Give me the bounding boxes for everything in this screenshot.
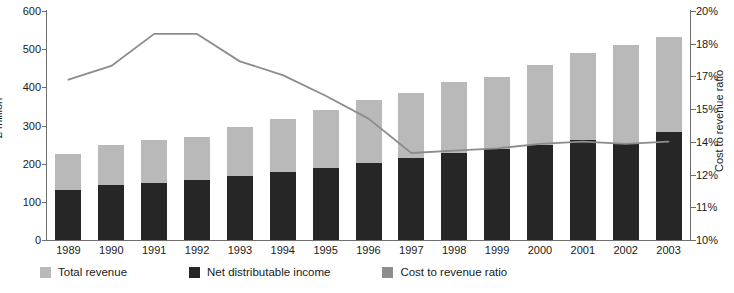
y-axis-right-tick-label: 20%	[696, 6, 718, 17]
bar-group	[656, 11, 682, 240]
x-axis-tick-label: 1992	[176, 244, 219, 256]
y-axis-left-tick-label: 300	[23, 121, 41, 132]
bar-group	[613, 11, 639, 240]
y-axis-right-tick-mark	[691, 240, 696, 241]
bar-group	[227, 11, 253, 240]
bar-segment-net-distributable-income	[313, 168, 339, 240]
bar-segment-net-distributable-income	[484, 149, 510, 240]
bar-group	[398, 11, 424, 240]
bar-group	[313, 11, 339, 240]
y-axis-left-tick-label: 0	[35, 235, 41, 246]
bar-group	[356, 11, 382, 240]
y-axis-left-tick-mark	[42, 126, 47, 127]
bar-segment-net-distributable-income	[441, 153, 467, 240]
legend-label: Net distributable income	[207, 266, 330, 278]
bar-segment-net-distributable-income	[55, 190, 81, 240]
x-axis-tick-label: 2001	[561, 244, 604, 256]
legend-item: Net distributable income	[189, 266, 330, 278]
bar-group	[441, 11, 467, 240]
x-axis-tick-label: 1990	[90, 244, 133, 256]
y-axis-left-tick-mark	[42, 240, 47, 241]
y-axis-right-tick-mark	[691, 11, 696, 12]
x-axis-tick-label: 1995	[304, 244, 347, 256]
y-axis-left-tick-label: 600	[23, 6, 41, 17]
bar-segment-net-distributable-income	[398, 158, 424, 240]
y-axis-left-tick-mark	[42, 11, 47, 12]
y-axis-right-tick-label: 10%	[696, 235, 718, 246]
legend-swatch-icon	[189, 267, 200, 278]
bar-segment-net-distributable-income	[141, 183, 167, 240]
bar-segment-net-distributable-income	[613, 143, 639, 240]
bar-group	[141, 11, 167, 240]
y-axis-left-tick-label: 100	[23, 197, 41, 208]
bar-group	[55, 11, 81, 240]
bar-segment-net-distributable-income	[270, 172, 296, 240]
x-axis-tick-label: 1996	[347, 244, 390, 256]
bar-segment-net-distributable-income	[656, 132, 682, 240]
x-axis-line	[46, 240, 691, 241]
y-axis-right-tick-mark	[691, 175, 696, 176]
plot-area	[47, 11, 690, 240]
x-axis-tick-label: 2002	[604, 244, 647, 256]
legend-label: Total revenue	[58, 266, 127, 278]
bar-group	[570, 11, 596, 240]
bar-segment-net-distributable-income	[570, 140, 596, 240]
y-axis-right-tick-mark	[691, 109, 696, 110]
x-axis-tick-label: 1993	[218, 244, 261, 256]
legend-swatch-icon	[40, 267, 51, 278]
y-axis-right-tick-mark	[691, 44, 696, 45]
legend-swatch-icon	[382, 267, 393, 278]
bar-group	[98, 11, 124, 240]
x-axis-tick-label: 1998	[433, 244, 476, 256]
y-axis-right-ticks: 10%11%12%14%15%17%18%20%	[696, 0, 734, 293]
y-axis-right-tick-label: 18%	[696, 39, 718, 50]
x-axis-tick-label: 2003	[647, 244, 690, 256]
y-axis-left-tick-mark	[42, 87, 47, 88]
bar-group	[484, 11, 510, 240]
y-axis-right-tick-label: 17%	[696, 71, 718, 82]
y-axis-right-tick-mark	[691, 207, 696, 208]
x-axis-tick-label: 1997	[390, 244, 433, 256]
y-axis-left-tick-label: 200	[23, 159, 41, 170]
y-axis-right-tick-label: 15%	[696, 104, 718, 115]
y-axis-left-tick-mark	[42, 164, 47, 165]
legend-item: Total revenue	[40, 266, 127, 278]
y-axis-right-tick-mark	[691, 76, 696, 77]
y-axis-right-tick-mark	[691, 142, 696, 143]
x-axis-tick-label: 1994	[261, 244, 304, 256]
y-axis-right-tick-label: 11%	[696, 202, 717, 213]
bar-segment-net-distributable-income	[527, 145, 553, 240]
y-axis-left-tick-mark	[42, 202, 47, 203]
legend-item: Cost to revenue ratio	[382, 266, 507, 278]
chart-legend: Total revenueNet distributable incomeCos…	[40, 266, 507, 278]
y-axis-right-tick-label: 14%	[696, 137, 718, 148]
bar-group	[527, 11, 553, 240]
x-axis-tick-label: 1989	[47, 244, 90, 256]
bar-segment-net-distributable-income	[98, 185, 124, 240]
bar-segment-net-distributable-income	[356, 163, 382, 240]
bar-group	[184, 11, 210, 240]
y-axis-left-tick-label: 500	[23, 44, 41, 55]
x-axis-tick-label: 1991	[133, 244, 176, 256]
y-axis-left-tick-mark	[42, 49, 47, 50]
legend-label: Cost to revenue ratio	[400, 266, 507, 278]
x-axis-tick-label: 1999	[476, 244, 519, 256]
y-axis-right-tick-label: 12%	[696, 170, 718, 181]
y-axis-left-ticks: 0100200300400500600	[0, 0, 41, 293]
bar-segment-net-distributable-income	[227, 176, 253, 240]
x-axis-tick-label: 2000	[519, 244, 562, 256]
bar-segment-net-distributable-income	[184, 180, 210, 240]
bar-group	[270, 11, 296, 240]
y-axis-left-tick-label: 400	[23, 82, 41, 93]
chart-container: £ million Cost to revenue ratio 01002003…	[0, 0, 734, 293]
